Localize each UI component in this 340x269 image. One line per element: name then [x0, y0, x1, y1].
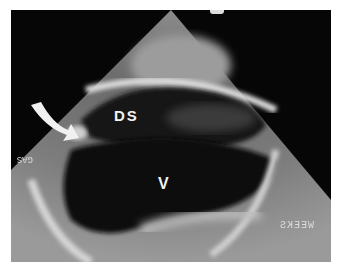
overlay-text-right: WEEKS — [279, 221, 314, 230]
label-ds: DS — [114, 107, 139, 124]
overlay-text-left: GAS — [11, 154, 33, 163]
ultrasound-image: DS V GAS WEEKS — [11, 10, 331, 262]
label-v: V — [158, 175, 171, 193]
probe-marker — [210, 10, 224, 14]
